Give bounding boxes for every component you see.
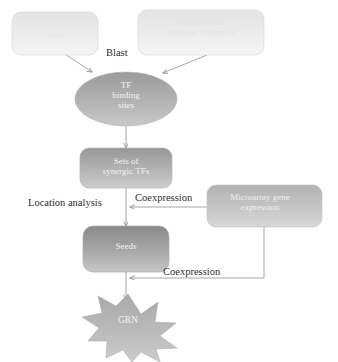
node-tf-binding-sites (75, 72, 177, 126)
edge-label-coexpression-grn: Coexpression (163, 267, 220, 278)
flowchart-diagram: TF binding motifs Genome-wide promoter s… (0, 0, 338, 362)
edge-label-location-analysis: Location analysis (28, 198, 102, 209)
node-genome-wide-promoter-sequences (138, 10, 264, 55)
edge-promoters-to-sites (163, 55, 207, 73)
node-seeds (83, 226, 169, 272)
node-microarray-gene-expression (207, 185, 322, 227)
flowchart-canvas (0, 0, 338, 362)
edge-label-blast: Blast (106, 48, 128, 59)
edge-label-coexpression-seeds: Coexpression (135, 193, 192, 204)
node-tf-binding-motifs (12, 12, 98, 55)
node-sets-of-synergic-tfs (80, 148, 172, 188)
node-grn (82, 294, 177, 362)
